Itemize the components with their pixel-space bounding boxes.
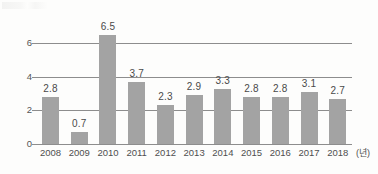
bar-slot: 2.7	[323, 30, 352, 144]
x-axis-tick-label: 2014	[208, 148, 237, 158]
scan-artifact	[2, 2, 48, 9]
x-axis-tick-label: 2015	[237, 148, 266, 158]
bar-group: 2.80.76.53.72.32.93.32.82.83.12.7	[36, 30, 352, 144]
bar-value-label: 2.8	[35, 84, 66, 94]
bar	[186, 95, 203, 144]
bar-value-label: 2.8	[265, 84, 296, 94]
y-axis-tick-label: 2	[6, 105, 32, 115]
bar-value-label: 2.3	[150, 92, 181, 102]
x-axis-tick-label: 2013	[180, 148, 209, 158]
bar-value-label: 2.9	[179, 82, 210, 92]
x-axis-tick-label: 2018	[323, 148, 352, 158]
bar-slot: 2.8	[36, 30, 65, 144]
y-axis-tick-mark	[32, 144, 36, 145]
bar	[272, 97, 289, 144]
y-axis-tick-label: 6	[6, 38, 32, 48]
bar-value-label: 3.3	[207, 76, 238, 86]
x-axis-unit-label: (년)	[356, 149, 370, 158]
bar-slot: 6.5	[93, 30, 122, 144]
x-axis: 2008200920102011201220132014201520162017…	[36, 148, 352, 162]
x-axis-tick-label: 2008	[36, 148, 65, 158]
bar-slot: 3.3	[208, 30, 237, 144]
y-axis-tick-mark	[32, 77, 36, 78]
bar	[243, 97, 260, 144]
bar-slot: 0.7	[65, 30, 94, 144]
bar-slot: 2.9	[180, 30, 209, 144]
y-axis-tick-label: 0	[6, 139, 32, 149]
bar	[214, 89, 231, 144]
x-axis-tick-label: 2010	[93, 148, 122, 158]
x-axis-tick-label: 2016	[266, 148, 295, 158]
bar	[329, 99, 346, 144]
x-axis-tick-label: 2012	[151, 148, 180, 158]
axis-baseline	[36, 144, 352, 145]
bar-slot: 2.8	[266, 30, 295, 144]
bar-value-label: 2.8	[236, 84, 267, 94]
y-axis-tick-mark	[32, 110, 36, 111]
bar-value-label: 3.7	[121, 69, 152, 79]
bar-value-label: 3.1	[294, 79, 325, 89]
bar	[99, 35, 116, 144]
bar	[157, 105, 174, 144]
x-axis-tick-label: 2011	[122, 148, 151, 158]
y-axis-tick-label: 4	[6, 72, 32, 82]
x-axis-tick-label: 2017	[295, 148, 324, 158]
y-axis: 6420	[0, 30, 32, 144]
bar-slot: 3.1	[295, 30, 324, 144]
bar	[71, 132, 88, 144]
bar-slot: 3.7	[122, 30, 151, 144]
bar	[128, 82, 145, 144]
bar-slot: 2.3	[151, 30, 180, 144]
bar	[42, 97, 59, 144]
bar-slot: 2.8	[237, 30, 266, 144]
bar-value-label: 6.5	[92, 22, 123, 32]
bar	[301, 92, 318, 144]
x-axis-tick-label: 2009	[65, 148, 94, 158]
bar-value-label: 0.7	[64, 119, 95, 129]
bar-value-label: 2.7	[322, 86, 353, 96]
bar-chart: 6420 2.80.76.53.72.32.93.32.82.83.12.7 2…	[0, 0, 378, 174]
y-axis-tick-mark	[32, 43, 36, 44]
